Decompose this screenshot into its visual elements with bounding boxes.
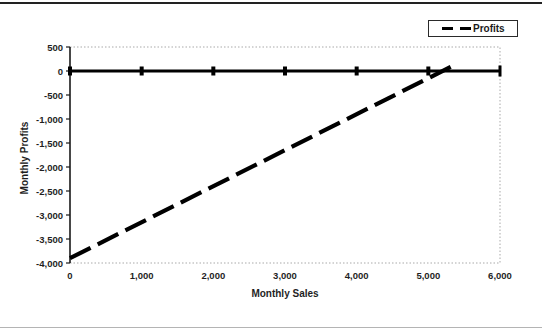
profit-chart [0, 0, 542, 334]
x-tick-label: 6,000 [475, 270, 525, 281]
zero-baseline-marker [283, 67, 287, 76]
bottom-rule [0, 327, 542, 328]
x-tick-label: 5,000 [403, 270, 453, 281]
x-tick-label: 0 [45, 270, 95, 281]
y-tick-label: 0 [13, 66, 63, 77]
zero-baseline-marker [211, 67, 215, 76]
y-tick-label: -500 [13, 90, 63, 101]
x-axis-title: Monthly Sales [70, 288, 500, 299]
zero-baseline-marker [68, 67, 72, 76]
zero-baseline-marker [426, 67, 430, 76]
profits-line [70, 64, 457, 258]
figure: 5000-500-1,000-1,500-2,000-2,500-3,000-3… [0, 0, 542, 334]
zero-baseline-marker [140, 67, 144, 76]
x-tick-label: 3,000 [260, 270, 310, 281]
plot-area-border [70, 47, 500, 263]
zero-baseline-endcap [499, 66, 502, 77]
y-tick-label: -3,000 [13, 210, 63, 221]
zero-baseline-marker [355, 67, 359, 76]
dashed-line-sample-icon [442, 27, 471, 31]
x-tick-label: 2,000 [188, 270, 238, 281]
y-tick-label: -4,000 [13, 258, 63, 269]
legend-label: Profits [473, 23, 505, 34]
x-tick-label: 4,000 [332, 270, 382, 281]
y-tick-label: -3,500 [13, 234, 63, 245]
y-tick-label: 500 [13, 42, 63, 53]
legend: Profits [428, 20, 518, 37]
y-axis-title: Monthly Profits [19, 113, 31, 203]
x-tick-label: 1,000 [117, 270, 167, 281]
